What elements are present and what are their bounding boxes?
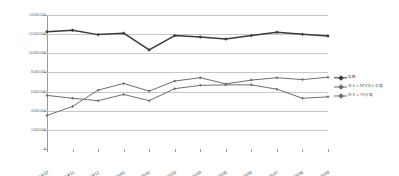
legend-marker-icon	[334, 84, 347, 90]
data-point-marker	[275, 88, 278, 91]
chart-legend: 総数日テレNTV法人会員日テレTV会員	[334, 74, 398, 101]
series-lines	[47, 15, 328, 149]
series-line	[47, 30, 328, 50]
data-point-marker	[301, 97, 304, 100]
y-axis-tick-label: 10,000,000	[6, 51, 46, 55]
x-axis-tick	[200, 149, 201, 152]
legend-item[interactable]: 日テレTV会員	[334, 92, 398, 100]
data-point-marker	[96, 33, 99, 36]
legend-label: 日テレTV会員	[348, 94, 373, 98]
y-axis-tick-label: 12,000,000	[6, 32, 46, 36]
x-axis-tick	[47, 149, 48, 152]
y-axis-tick-label: 6,000,000	[6, 90, 46, 94]
series-1	[45, 29, 329, 52]
data-point-marker	[250, 34, 253, 37]
x-axis-tick	[328, 149, 329, 152]
x-axis-tick	[302, 149, 303, 152]
y-axis-tick-label: 0	[6, 147, 46, 151]
data-point-marker	[173, 80, 176, 83]
y-axis-tick-label: 4,000,000	[6, 109, 46, 113]
series-line	[47, 85, 328, 101]
data-point-marker	[326, 34, 329, 37]
plot-area	[47, 15, 328, 149]
x-axis-tick-label: 2015/08	[285, 170, 305, 176]
data-point-marker	[224, 37, 227, 40]
x-axis-tick	[149, 149, 150, 152]
data-point-marker	[301, 78, 304, 81]
legend-label: 総数	[348, 76, 356, 80]
data-point-marker	[327, 76, 330, 79]
data-point-marker	[173, 87, 176, 90]
data-point-marker	[148, 99, 151, 102]
data-point-marker	[97, 99, 100, 102]
data-point-marker	[301, 33, 304, 36]
series-3	[46, 83, 330, 102]
x-axis-tick-label: 2015/04	[182, 170, 202, 176]
data-point-marker	[71, 97, 74, 100]
chart-container: 02,000,0004,000,0006,000,0008,000,00010,…	[0, 0, 399, 176]
x-axis-tick-label: 2014/11	[55, 170, 75, 176]
x-axis-tick	[73, 149, 74, 152]
x-axis-tick-label: 2015/06	[234, 170, 254, 176]
x-axis-tick	[277, 149, 278, 152]
data-point-marker	[46, 114, 49, 117]
data-point-marker	[199, 35, 202, 38]
x-axis-tick	[251, 149, 252, 152]
legend-label: 日テレNTV法人会員	[348, 85, 383, 89]
data-point-marker	[327, 95, 330, 98]
x-axis-tick-label: 2015/09	[310, 170, 330, 176]
y-axis-tick-label: 8,000,000	[6, 70, 46, 74]
data-point-marker	[275, 76, 278, 79]
x-axis-tick	[175, 149, 176, 152]
x-axis-tick-label: 2014/12	[80, 170, 100, 176]
x-axis-tick-label: 2015/02	[131, 170, 151, 176]
data-point-marker	[199, 84, 202, 87]
data-point-marker	[122, 93, 125, 96]
data-point-marker	[275, 31, 278, 34]
data-point-marker	[148, 90, 151, 93]
x-axis-tick	[124, 149, 125, 152]
data-point-marker	[250, 79, 253, 82]
y-axis-tick-label: 14,000,000	[6, 13, 46, 17]
data-point-marker	[122, 82, 125, 85]
x-axis-tick-label: 2015/05	[208, 170, 228, 176]
legend-marker-icon	[334, 93, 347, 99]
x-axis-tick	[226, 149, 227, 152]
legend-item[interactable]: 総数	[334, 74, 398, 82]
data-point-marker	[71, 29, 74, 32]
x-axis-tick-label: 2015/03	[157, 170, 177, 176]
data-point-marker	[199, 76, 202, 79]
y-axis-tick-label: 2,000,000	[6, 128, 46, 132]
series-2	[46, 76, 330, 117]
data-point-marker	[46, 94, 49, 97]
legend-item[interactable]: 日テレNTV法人会員	[334, 83, 398, 91]
data-point-marker	[250, 83, 253, 86]
x-axis-tick-label: 2014/10	[29, 170, 49, 176]
x-axis-tick	[98, 149, 99, 152]
legend-marker-icon	[334, 75, 347, 81]
x-axis-tick-label: 2015/01	[106, 170, 126, 176]
x-axis-tick-label: 2015/07	[259, 170, 279, 176]
series-line	[47, 77, 328, 115]
